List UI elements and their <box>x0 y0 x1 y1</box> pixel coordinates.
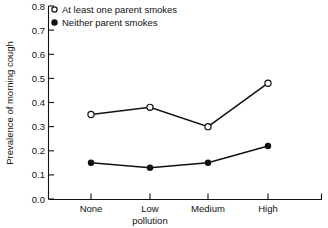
legend-open-circle-icon <box>52 7 57 12</box>
y-axis-tick-labels: 0.8 0.7 0.6 0.5 0.4 0.3 0.2 0.1 0.0 <box>32 1 45 205</box>
y-tick-label: 0.8 <box>32 1 45 12</box>
data-point <box>88 160 93 165</box>
series-line-neither-parent-smokes <box>91 146 268 168</box>
legend-label-1: Neither parent smokes <box>62 17 158 28</box>
y-tick-label: 0.3 <box>32 121 45 132</box>
x-axis-title: pollution <box>132 215 167 226</box>
x-tick-label-medium: Medium <box>191 203 225 214</box>
data-point <box>265 143 270 148</box>
series-markers-at-least-one-parent-smokes <box>88 80 271 130</box>
line-chart: 0.8 0.7 0.6 0.5 0.4 0.3 0.2 0.1 0.0 Prev… <box>0 0 328 228</box>
x-tick-label-high: High <box>258 203 278 214</box>
data-point <box>88 111 94 117</box>
y-tick-label: 0.0 <box>32 194 45 205</box>
y-tick-label: 0.1 <box>32 169 45 180</box>
x-axis-tick-labels: None Low Medium High <box>80 203 278 214</box>
chart-container: 0.8 0.7 0.6 0.5 0.4 0.3 0.2 0.1 0.0 Prev… <box>0 0 328 228</box>
series-markers-neither-parent-smokes <box>88 143 270 170</box>
y-tick-label: 0.4 <box>32 97 45 108</box>
x-axis-ticks <box>91 194 322 200</box>
x-tick-label-low: Low <box>141 203 159 214</box>
y-tick-label: 0.2 <box>32 145 45 156</box>
x-tick-label-none: None <box>80 203 103 214</box>
series-line-at-least-one-parent-smokes <box>91 83 268 126</box>
y-axis-title: Prevalence of morning cough <box>4 41 15 165</box>
data-point <box>265 80 271 86</box>
data-point <box>147 165 152 170</box>
legend-label-0: At least one parent smokes <box>62 4 177 15</box>
y-tick-label: 0.6 <box>32 49 45 60</box>
y-tick-label: 0.7 <box>32 25 45 36</box>
data-point <box>147 104 153 110</box>
y-axis-ticks <box>49 6 55 199</box>
data-point <box>205 160 210 165</box>
legend: At least one parent smokes Neither paren… <box>52 4 177 28</box>
y-tick-label: 0.5 <box>32 73 45 84</box>
data-point <box>205 124 211 130</box>
legend-filled-circle-icon <box>52 20 57 25</box>
